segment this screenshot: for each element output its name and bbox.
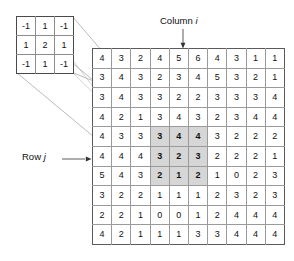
grid-cell: 1	[265, 49, 284, 69]
grid-cell: 3	[208, 225, 227, 245]
grid-cell: 3	[131, 166, 150, 186]
kernel-cell: -1	[55, 17, 74, 36]
grid-cell: 3	[131, 127, 150, 147]
grid-cell: 4	[169, 107, 188, 127]
grid-cell: 3	[169, 68, 188, 88]
grid-cell: 3	[227, 49, 246, 69]
row-label-symbol: j	[44, 151, 46, 162]
grid-cell: 2	[265, 127, 284, 147]
kernel-cell: 2	[36, 36, 55, 55]
grid-cell: 4	[246, 205, 265, 225]
grid-cell: 4	[265, 88, 284, 108]
grid-row: 3 4 3 2 3 4 5 3 2 1	[93, 68, 285, 88]
grid-cell: 3	[265, 166, 284, 186]
row-label-prefix: Row	[22, 151, 41, 162]
grid-cell: 3	[188, 225, 207, 245]
grid-cell-highlighted: 4	[169, 127, 188, 147]
grid-cell: 2	[169, 88, 188, 108]
grid-cell: 3	[246, 88, 265, 108]
grid-row: 3 4 3 3 2 2 3 3 3 4	[93, 88, 285, 108]
grid-cell: 1	[150, 186, 169, 206]
grid-cell: 4	[246, 107, 265, 127]
column-arrow	[181, 29, 186, 49]
grid-cell: 2	[208, 205, 227, 225]
grid-cell: 2	[150, 68, 169, 88]
grid-row: 4 4 4 3 2 3 2 2 2 1	[93, 146, 285, 166]
grid-cell: 3	[188, 107, 207, 127]
grid-cell: 0	[169, 205, 188, 225]
kernel-cell: 1	[36, 17, 55, 36]
grid-cell: 1	[169, 225, 188, 245]
grid-cell-highlighted: 3	[150, 127, 169, 147]
grid-cell: 2	[112, 225, 131, 245]
grid-cell: 1	[208, 166, 227, 186]
kernel-cell: 1	[55, 36, 74, 55]
kernel-cell: -1	[55, 55, 74, 74]
grid-cell: 3	[93, 186, 112, 206]
grid-cell: 4	[112, 68, 131, 88]
grid-cell: 4	[208, 49, 227, 69]
grid-cell: 1	[131, 107, 150, 127]
grid-cell: 1	[265, 146, 284, 166]
grid-cell: 3	[112, 49, 131, 69]
grid-cell: 3	[93, 68, 112, 88]
grid-cell: 4	[93, 107, 112, 127]
grid-cell: 3	[131, 68, 150, 88]
grid-cell-highlighted: 3	[188, 146, 207, 166]
grid-cell: 1	[265, 68, 284, 88]
grid-cell-highlighted: 1	[169, 166, 188, 186]
kernel-row: -1 1 -1	[17, 55, 74, 74]
grid-cell: 5	[208, 68, 227, 88]
grid-cell: 2	[227, 146, 246, 166]
grid-row: 4 2 1 1 1 3 3 4 4 4	[93, 225, 285, 245]
grid-cell: 2	[208, 107, 227, 127]
grid-cell: 4	[93, 225, 112, 245]
grid-cell: 2	[112, 186, 131, 206]
grid-cell: 4	[112, 146, 131, 166]
grid-cell: 1	[246, 49, 265, 69]
kernel-cell: 1	[36, 55, 55, 74]
grid-cell: 3	[150, 88, 169, 108]
kernel-matrix: -1 1 -1 1 2 1 -1 1 -1	[16, 16, 74, 74]
grid-cell: 5	[93, 166, 112, 186]
grid-cell: 1	[131, 205, 150, 225]
grid-cell: 3	[227, 68, 246, 88]
grid-row: 5 4 3 2 1 2 1 0 2 3	[93, 166, 285, 186]
grid-cell: 3	[227, 88, 246, 108]
grid-cell-highlighted: 2	[150, 166, 169, 186]
grid-cell: 4	[188, 68, 207, 88]
column-label: Column i	[160, 16, 198, 26]
row-label: Row j	[22, 152, 46, 162]
grid-cell: 0	[227, 166, 246, 186]
grid-cell-highlighted: 3	[150, 146, 169, 166]
grid-cell: 2	[188, 88, 207, 108]
grid-cell: 2	[131, 186, 150, 206]
grid-cell: 2	[131, 49, 150, 69]
grid-cell: 4	[265, 205, 284, 225]
grid-cell: 4	[112, 88, 131, 108]
grid-cell: 2	[208, 186, 227, 206]
grid-cell: 3	[227, 107, 246, 127]
grid-cell: 3	[112, 127, 131, 147]
grid-cell: 2	[208, 146, 227, 166]
grid-cell: 4	[150, 49, 169, 69]
grid-cell-highlighted: 2	[169, 146, 188, 166]
grid-cell: 3	[150, 107, 169, 127]
grid-cell: 2	[246, 68, 265, 88]
grid-cell: 1	[188, 186, 207, 206]
grid-cell: 4	[131, 146, 150, 166]
kernel-cell: 1	[17, 36, 36, 55]
grid-cell: 4	[93, 146, 112, 166]
grid-cell: 1	[188, 205, 207, 225]
grid-row: 4 2 1 3 4 3 2 3 4 4	[93, 107, 285, 127]
grid-cell-highlighted: 2	[188, 166, 207, 186]
grid-cell-highlighted: 4	[188, 127, 207, 147]
grid-cell: 2	[246, 127, 265, 147]
pixel-grid: 4 3 2 4 5 6 4 3 1 1 3 4 3 2 3 4 5 3 2 1 …	[92, 48, 285, 245]
grid-cell: 4	[93, 127, 112, 147]
kernel-row: -1 1 -1	[17, 17, 74, 36]
grid-row: 2 2 1 0 0 1 2 4 4 4	[93, 205, 285, 225]
column-label-symbol: i	[195, 15, 197, 26]
grid-cell: 4	[227, 205, 246, 225]
grid-cell: 4	[112, 166, 131, 186]
